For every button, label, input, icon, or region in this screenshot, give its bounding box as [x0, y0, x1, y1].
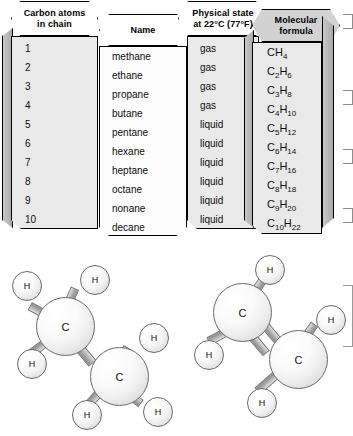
hydrogen-atom-label: H — [267, 265, 274, 275]
hydrogen-atom: H — [139, 323, 169, 353]
carbon-atom: C — [213, 283, 272, 342]
column-3-header-line2: at 22°C (77°F) — [193, 19, 253, 30]
table-row: 4 — [12, 96, 110, 115]
hydrogen-atom-label: H — [92, 275, 99, 285]
hydrogen-atom-label: H — [328, 315, 335, 325]
column-4-right-side-panel — [322, 16, 334, 228]
carbon-atom: C — [269, 330, 328, 389]
carbon-atom: C — [36, 297, 95, 356]
column-2-header: Name — [99, 14, 187, 46]
column-4-body: CH4 C2H6 C3H8 C4H10 C5H12 C6H14 C7H16 C8… — [252, 42, 322, 234]
hydrogen-atom: H — [143, 397, 173, 427]
carbon-atom-label: C — [116, 371, 124, 383]
hydrogen-atom: H — [255, 255, 285, 285]
table-row: nonane — [100, 199, 198, 218]
table-row: methane — [100, 47, 198, 66]
carbon-atom-label: C — [62, 321, 70, 333]
table-row: butane — [100, 104, 198, 123]
ethane-model: C C H H H H H H — [0, 245, 180, 436]
hydrogen-atom: H — [17, 349, 47, 379]
carbon-atom: C — [90, 347, 149, 406]
column-1-body: 1 2 3 4 5 6 7 8 9 10 — [11, 36, 98, 229]
hydrogen-atom-label: H — [155, 407, 162, 417]
column-3-header-line1: Physical state — [192, 8, 253, 19]
alkane-properties-table: Carbon atoms in chain 1 2 3 4 5 6 7 8 9 … — [0, 0, 352, 245]
hydrogen-atom: H — [80, 265, 110, 295]
carbon-atom-label: C — [239, 307, 247, 319]
table-row: 3 — [12, 77, 110, 96]
hydrogen-atom: H — [12, 271, 42, 301]
column-4-header-line2: formula — [279, 26, 313, 37]
table-row: octane — [100, 180, 198, 199]
hydrogen-atom: H — [194, 340, 224, 370]
hydrogen-atom-label: H — [84, 410, 91, 420]
table-row: 2 — [12, 58, 110, 77]
page-edge-artifact — [343, 208, 353, 223]
ethene-model: C C H H H H — [185, 245, 352, 436]
column-1-header-line2: in chain — [37, 19, 72, 30]
table-row: ethane — [100, 66, 198, 85]
table-row: 5 — [12, 115, 110, 134]
column-1-header: Carbon atoms in chain — [11, 1, 98, 36]
table-row: 10 — [12, 210, 110, 229]
table-row: 6 — [12, 134, 110, 153]
carbon-atom-label: C — [295, 354, 303, 366]
table-row: 8 — [12, 172, 110, 191]
table-row: propane — [100, 85, 198, 104]
column-4-header-line1: Molecular — [275, 15, 318, 26]
table-row: 1 — [12, 39, 110, 58]
table-row: decane — [100, 218, 198, 237]
hydrogen-atom: H — [72, 400, 102, 430]
hydrogen-atom-label: H — [206, 350, 213, 360]
column-2-body: methane ethane propane butane pentane he… — [99, 46, 187, 236]
hydrogen-atom-label: H — [29, 359, 36, 369]
table-row: 9 — [12, 191, 110, 210]
column-3-header: Physical state at 22°C (77°F) — [178, 1, 268, 36]
hydrogen-atom: H — [247, 388, 277, 418]
page-edge-artifact — [343, 14, 353, 29]
page-edge-artifact — [343, 149, 353, 164]
hydrogen-atom-label: H — [259, 398, 266, 408]
column-1-header-line1: Carbon atoms — [24, 8, 86, 19]
table-row: pentane — [100, 123, 198, 142]
column-2-header-line1: Name — [131, 25, 156, 36]
table-row: 7 — [12, 153, 110, 172]
page-edge-artifact — [343, 90, 353, 105]
table-row: heptane — [100, 161, 198, 180]
molecule-models: C C H H H H H H — [0, 245, 352, 436]
hydrogen-atom: H — [316, 305, 346, 335]
table-row: hexane — [100, 142, 198, 161]
hydrogen-atom-label: H — [24, 281, 31, 291]
hydrogen-atom-label: H — [151, 333, 158, 343]
